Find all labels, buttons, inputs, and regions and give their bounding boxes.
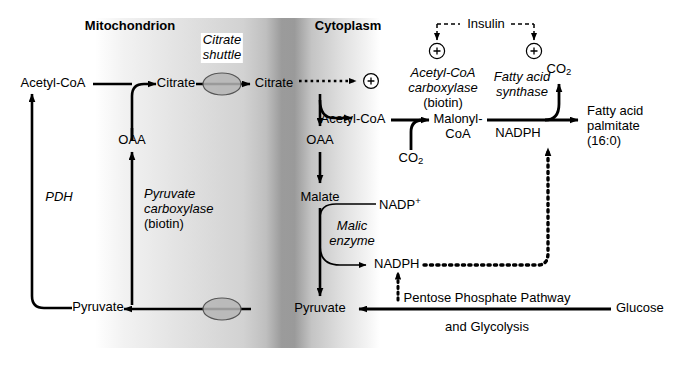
enzyme-pyruvate-carboxylase-line3: (biotin): [144, 217, 184, 232]
metabolite-mito-oaa: OAA: [118, 133, 145, 148]
co2-subscript: 2: [418, 155, 423, 166]
metabolite-nadp-plus: NADP+: [379, 196, 421, 213]
co2-subscript: 2: [566, 66, 571, 77]
citrate-shuttle-label-line1: Citrate: [201, 33, 243, 48]
nadp-text: NADP: [379, 197, 415, 212]
product-line2: palmitate: [587, 119, 640, 134]
co2-text: CO: [399, 150, 419, 165]
compartment-label-mitochondrion: Mitochondrion: [85, 19, 175, 34]
citrate-shuttle-label-line2: shuttle: [201, 48, 243, 63]
metabolite-co2-carboxylase: CO2: [399, 151, 424, 167]
enzyme-pdh: PDH: [45, 190, 72, 205]
compartment-label-cytoplasm: Cytoplasm: [315, 19, 381, 34]
pathway-ppp-line1: Pentose Phosphate Pathway: [404, 291, 571, 306]
metabolite-nadph-malic: NADPH: [374, 257, 420, 272]
hormone-label-insulin: Insulin: [467, 17, 505, 32]
enzyme-pyruvate-carboxylase-line1: Pyruvate: [144, 187, 195, 202]
product-line1: Fatty acid: [587, 104, 643, 119]
enzyme-acc-line1: Acetyl-CoA: [410, 66, 475, 81]
metabolite-cyto-oaa: OAA: [306, 133, 333, 148]
metabolite-co2-synthase: CO2: [547, 62, 572, 78]
metabolite-cyto-citrate: Citrate: [255, 76, 293, 91]
enzyme-acc-line3: (biotin): [423, 96, 463, 111]
metabolite-malonyl-coa-line2: CoA: [445, 127, 470, 142]
enzyme-malic-line2: enzyme: [329, 234, 375, 249]
metabolite-glucose: Glucose: [616, 301, 664, 316]
metabolite-cyto-pyruvate: Pyruvate: [294, 301, 345, 316]
figure-canvas: Mitochondrion Cytoplasm Citrate shuttle …: [0, 0, 677, 366]
metabolite-cyto-acetyl-coa: Acetyl-CoA: [320, 112, 385, 127]
mitochondrial-membrane-band: [95, 18, 380, 348]
metabolite-cyto-malate: Malate: [300, 190, 339, 205]
enzyme-fas-line2: synthase: [496, 85, 548, 100]
metabolite-nadph-synthase: NADPH: [495, 126, 541, 141]
enzyme-acc-line2: carboxylase: [408, 81, 477, 96]
product-line3: (16:0): [587, 134, 621, 149]
pathway-ppp-line2: and Glycolysis: [445, 320, 529, 335]
arrow-acetylcoa-to-malonylcoa: [391, 120, 429, 150]
metabolite-mito-citrate: Citrate: [157, 76, 195, 91]
dotted-nadph-supply: [424, 148, 548, 265]
metabolite-mito-acetyl-coa: Acetyl-CoA: [20, 76, 85, 91]
enzyme-fas-line1: Fatty acid: [494, 70, 550, 85]
nadp-superscript: +: [415, 195, 421, 206]
metabolite-mito-pyruvate: Pyruvate: [72, 300, 123, 315]
enzyme-pyruvate-carboxylase-line2: carboxylase: [144, 202, 213, 217]
enzyme-malic-line1: Malic: [337, 219, 367, 234]
metabolite-malonyl-coa-line1: Malonyl-: [433, 112, 482, 127]
